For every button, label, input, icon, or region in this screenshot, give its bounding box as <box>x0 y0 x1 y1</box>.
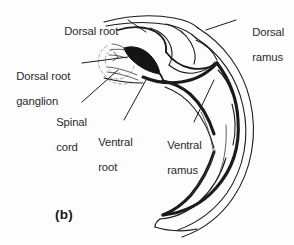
leader-spinal-cord <box>82 70 118 102</box>
label-spinal-cord-line1: Spinal <box>56 116 87 128</box>
label-dorsal-ramus: Dorsal ramus <box>240 13 284 76</box>
costal-facet-line <box>196 40 217 60</box>
label-spinal-cord: Spinal cord <box>44 103 87 166</box>
rib-costal-groove-line <box>232 104 235 145</box>
label-dorsal-ramus-line2: ramus <box>252 51 283 63</box>
ventral-root-fiber-upper <box>108 67 137 75</box>
leader-dorsal-ramus <box>206 20 236 30</box>
label-dorsal-ramus-line1: Dorsal <box>252 26 284 38</box>
label-ventral-ramus-line2: ramus <box>167 164 198 176</box>
leader-dorsal-root <box>128 20 146 32</box>
figure-caption: (b) <box>55 207 73 222</box>
label-ventral-ramus: Ventral ramus <box>155 126 202 189</box>
dorsal-root-ganglion-body <box>124 47 160 74</box>
spinal-cord-ventral-edge <box>104 76 130 84</box>
label-ventral-root-line1: Ventral <box>98 136 132 148</box>
intercostal-tip <box>155 219 160 227</box>
leader-ventral-root <box>124 80 146 120</box>
transverse-process-upper <box>166 52 217 69</box>
label-dorsal-root: Dorsal root <box>52 12 118 50</box>
label-ventral-ramus-line1: Ventral <box>167 139 201 151</box>
label-spinal-cord-line2: cord <box>56 141 78 153</box>
label-ventral-root: Ventral root <box>86 123 133 186</box>
label-ventral-root-line2: root <box>98 161 117 173</box>
label-dorsal-root-text: Dorsal root <box>64 25 118 37</box>
anatomy-figure: Dorsal root Dorsal root ganglion Spinal … <box>0 0 294 245</box>
gray-matter-horn <box>113 52 118 61</box>
label-dorsal-root-ganglion-line1: Dorsal root <box>16 70 70 82</box>
pleura-line-lower <box>155 227 197 231</box>
